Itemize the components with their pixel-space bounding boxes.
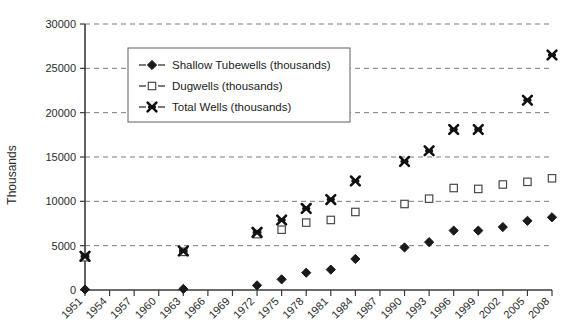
data-point <box>303 219 310 226</box>
data-point <box>401 200 408 207</box>
x-tick-label: 1957 <box>108 295 134 321</box>
data-point <box>302 268 311 277</box>
x-tick-label: 1954 <box>83 295 109 321</box>
x-tick-label: 1963 <box>157 295 183 321</box>
y-axis-title-group: Thousands <box>5 145 19 204</box>
data-point <box>548 175 555 182</box>
data-point <box>400 157 409 166</box>
y-axis-tick-labels: 050001000015000200002500030000 <box>45 18 76 296</box>
data-point <box>524 178 531 185</box>
data-point <box>499 181 506 188</box>
well-statistics-chart: 050001000015000200002500030000 195119541… <box>0 0 562 336</box>
y-axis-title: Thousands <box>5 145 19 204</box>
data-point <box>474 226 483 235</box>
y-tick-label: 25000 <box>45 62 76 74</box>
x-tick-label: 1978 <box>280 295 306 321</box>
data-point <box>326 195 335 204</box>
y-tick-label: 30000 <box>45 18 76 30</box>
data-point <box>327 216 334 223</box>
data-point <box>351 254 360 263</box>
data-point <box>498 222 507 231</box>
data-point <box>351 177 360 186</box>
x-tick-label: 1972 <box>231 295 257 321</box>
x-tick-label: 1987 <box>354 295 380 321</box>
x-tick-label: 2005 <box>501 295 527 321</box>
x-tick-label: 2008 <box>526 295 552 321</box>
x-tick-label: 1951 <box>59 295 85 321</box>
legend-label: Total Wells (thousands) <box>172 101 291 113</box>
data-point <box>548 51 557 60</box>
chart-canvas: 050001000015000200002500030000 195119541… <box>0 0 562 336</box>
y-tick-label: 5000 <box>52 240 76 252</box>
data-point <box>449 226 458 235</box>
data-point <box>179 284 188 293</box>
x-tick-label: 1984 <box>329 295 355 321</box>
data-point <box>400 243 409 252</box>
data-point <box>277 216 286 225</box>
data-point <box>277 275 286 284</box>
x-tick-label: 1990 <box>378 295 404 321</box>
series-square <box>81 175 555 261</box>
legend-marker-square <box>148 82 155 89</box>
y-tick-label: 0 <box>70 284 76 296</box>
data-point <box>547 213 556 222</box>
x-tick-label: 1999 <box>452 295 478 321</box>
data-point <box>302 204 311 213</box>
data-point <box>449 125 458 134</box>
data-point <box>474 125 483 134</box>
x-axis-tick-labels: 1951195419571960196319661969197219751978… <box>59 295 552 321</box>
data-point <box>425 146 434 155</box>
x-tick-label: 1996 <box>427 295 453 321</box>
x-tick-label: 2002 <box>476 295 502 321</box>
chart-legend: Shallow Tubewells (thousands)Dugwells (t… <box>128 48 350 122</box>
data-point <box>352 208 359 215</box>
x-tick-label: 1960 <box>132 295 158 321</box>
data-point <box>80 285 89 294</box>
data-point <box>425 195 432 202</box>
data-point <box>475 185 482 192</box>
data-point <box>523 96 532 105</box>
data-point <box>326 265 335 274</box>
data-point <box>425 238 434 247</box>
legend-label: Dugwells (thousands) <box>172 80 283 92</box>
legend-label: Shallow Tubewells (thousands) <box>172 59 331 71</box>
y-tick-label: 15000 <box>45 151 76 163</box>
x-tick-label: 1975 <box>255 295 281 321</box>
data-point <box>252 281 261 290</box>
x-tick-label: 1966 <box>182 295 208 321</box>
x-tick-label: 1993 <box>403 295 429 321</box>
data-point <box>278 226 285 233</box>
x-tick-label: 1981 <box>304 295 330 321</box>
data-point <box>523 216 532 225</box>
series-diamond <box>80 213 556 294</box>
x-tick-label: 1969 <box>206 295 232 321</box>
data-point <box>450 184 457 191</box>
y-tick-label: 10000 <box>45 195 76 207</box>
y-tick-label: 20000 <box>45 107 76 119</box>
